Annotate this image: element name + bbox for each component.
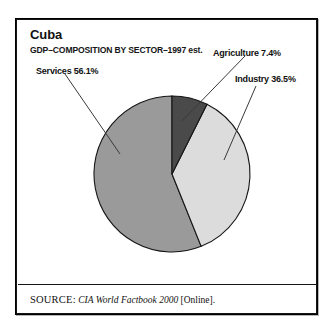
figure-frame: Cuba GDP–COMPOSITION BY SECTOR–1997 est.…: [15, 18, 318, 315]
pie-chart: Services 56.1% Agriculture 7.4% Industry…: [17, 20, 318, 285]
pie-label-agriculture: Agriculture 7.4%: [213, 48, 281, 59]
pie-label-services: Services 56.1%: [36, 66, 98, 77]
source-line: SOURCE: CIA World Factbook 2000 [Online]…: [30, 294, 215, 306]
leader-line-services: [65, 74, 120, 154]
source-divider: [18, 284, 317, 285]
source-suffix: [Online].: [178, 295, 215, 305]
source-title: CIA World Factbook 2000: [78, 295, 178, 305]
source-label: SOURCE:: [30, 294, 76, 305]
pie-label-industry: Industry 36.5%: [235, 74, 296, 85]
figure-inner-border: Cuba GDP–COMPOSITION BY SECTOR–1997 est.…: [16, 19, 317, 314]
pie-chart-svg: [17, 20, 318, 285]
